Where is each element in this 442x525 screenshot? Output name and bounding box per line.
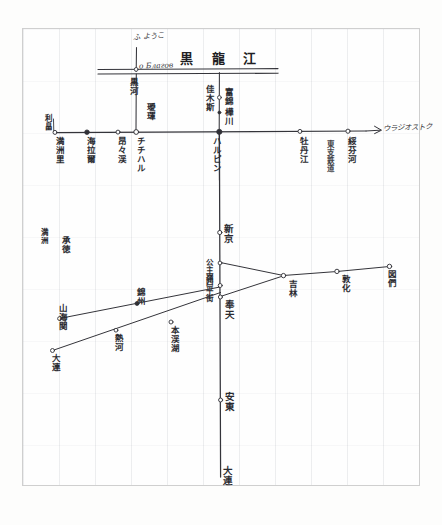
station-marker-gongzhuling — [218, 261, 222, 265]
station-marker-rehe — [114, 328, 118, 332]
branch-right-to-dunhua — [284, 272, 338, 276]
label-station-siping: 四平街 — [205, 278, 213, 302]
sketch-map-canvas: ふ ようこ о Благов 黒 龍 江 黒河 璦琿 佳木斯 富錦 樺川 利畠 … — [0, 0, 442, 525]
label-station-jinzhou: 錦州 — [135, 288, 144, 306]
mainline-horizontal — [55, 131, 366, 133]
label-arrow-vladivostok: ウラジオストク — [383, 123, 432, 132]
label-station-xinjing: 新京 — [223, 224, 233, 244]
label-river-blagoveshchensk: о Благов — [139, 61, 174, 70]
station-marker-hailar — [85, 130, 90, 135]
station-marker-xinjing — [218, 230, 222, 234]
station-marker-andong — [219, 398, 223, 402]
pencil-drawing-layer — [0, 0, 442, 525]
label-station-dunhua: 敦化 — [340, 275, 349, 293]
arrow-east — [366, 126, 382, 133]
label-station-rehe: 熱河 — [113, 334, 122, 352]
station-marker-fujin — [218, 96, 222, 100]
label-left-margin-note-1: 満洲 — [40, 228, 48, 244]
station-marker-jilin — [281, 273, 285, 277]
river-line-lower — [98, 73, 278, 74]
map-title: 黒 龍 江 — [180, 52, 263, 65]
station-marker-huachuan — [218, 111, 221, 114]
station-marker-blagov — [134, 68, 138, 72]
label-station-andong: 安東 — [224, 392, 234, 412]
label-station-shanhaiguan: 山海関 — [57, 304, 66, 331]
label-left-margin-note-2: 東支鉄道 — [326, 140, 334, 172]
label-line-left-end: 利畠 — [44, 114, 52, 130]
label-station-tumen: 図們 — [386, 270, 395, 288]
station-marker-manzhouli — [53, 130, 57, 134]
branch-right-to-tumen — [337, 267, 390, 272]
station-marker-harbin — [217, 129, 222, 134]
mainline-vertical — [219, 132, 220, 477]
label-station-harbin: ハルピン — [211, 137, 220, 173]
label-station-qiqihar: チチハル — [135, 137, 144, 173]
label-station-dalian-sw: 大連 — [50, 354, 59, 372]
label-line-bottom-end: 大連 — [222, 466, 232, 486]
station-marker-dunhua — [335, 269, 339, 273]
label-left-margin-note-extra: 承徳 — [60, 236, 69, 254]
label-station-jilin: 吉林 — [287, 280, 296, 298]
station-marker-angangxi — [116, 130, 120, 134]
station-marker-siping — [218, 284, 222, 288]
label-station-benxihu: 本渓湖 — [169, 326, 178, 353]
station-marker-fengtian — [218, 295, 222, 299]
station-marker-benxihu — [169, 320, 173, 324]
station-marker-suifenhe — [346, 129, 350, 133]
station-marker-qiqihar — [134, 130, 139, 135]
label-heihe: 黒河 — [128, 78, 137, 96]
label-station-mudanjiang: 牡丹江 — [298, 137, 307, 164]
label-station-angangxi: 昂々渓 — [116, 137, 125, 164]
label-station-suifenhe: 綏芬河 — [346, 137, 355, 164]
station-marker-tumen — [387, 264, 391, 268]
branch-right-lower — [220, 276, 283, 297]
label-jiamusi: 佳木斯 — [204, 85, 213, 112]
label-station-manzhouli: 満洲里 — [54, 137, 63, 164]
branch-right-upper — [220, 263, 283, 276]
station-marker-mudanjiang — [298, 129, 302, 133]
label-station-hailar: 海拉爾 — [85, 137, 94, 164]
station-marker-dalian-sw — [51, 349, 55, 353]
label-station-fengtian: 奉天 — [224, 300, 234, 320]
label-aihui: 璦琿 — [145, 103, 154, 121]
river-line-upper — [98, 69, 278, 70]
label-huachuan: 樺川 — [223, 108, 232, 126]
label-fujin: 富錦 — [223, 88, 232, 106]
